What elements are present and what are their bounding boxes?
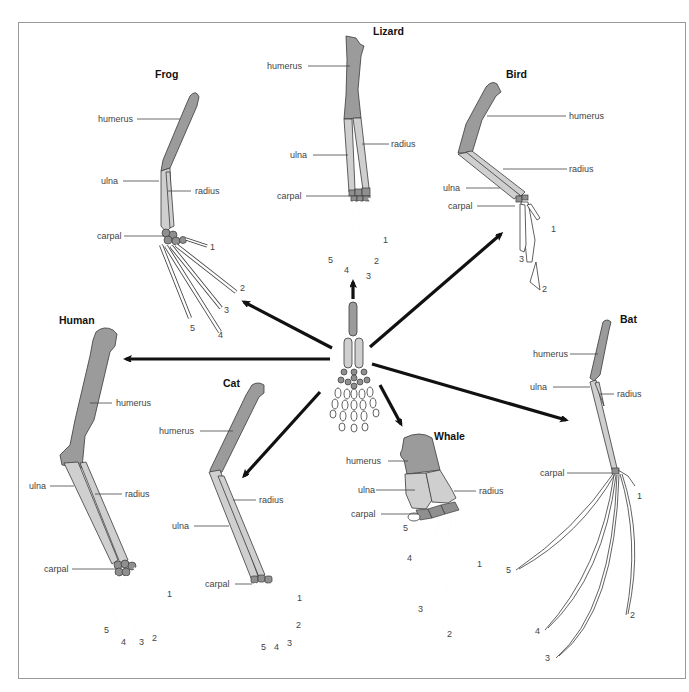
human-digits	[114, 568, 163, 632]
lizard-radius-label: radius	[391, 139, 416, 149]
cat-limb: Cat humerus radius ulna carpal 1	[159, 377, 302, 652]
bird-digit-2: 2	[542, 284, 547, 294]
bird-ulna-label: ulna	[443, 183, 460, 193]
bird-radius	[466, 151, 525, 196]
frog-digits	[161, 239, 236, 332]
bird-ulna	[458, 152, 520, 199]
bat-digits	[516, 470, 635, 658]
whale-digit-5: 5	[403, 523, 408, 533]
bat-ulna	[590, 380, 617, 470]
frog-digit-4: 4	[218, 330, 223, 340]
bird-title: Bird	[506, 68, 527, 80]
frog-humerus-label: humerus	[98, 114, 134, 124]
bat-ulna-label: ulna	[530, 382, 547, 392]
human-digit-3: 3	[139, 637, 144, 647]
generic-ulna	[344, 338, 352, 368]
arrow-to-bat	[372, 364, 566, 420]
cat-digit-4: 4	[274, 642, 279, 652]
cat-digit-1: 1	[297, 593, 302, 603]
bat-humerus-label: humerus	[533, 349, 569, 359]
diagram-canvas: Frog humerus ulna radius carpal	[0, 0, 689, 692]
cat-ulna-label: ulna	[172, 521, 189, 531]
bird-digit-3: 3	[519, 254, 524, 264]
frog-carpals	[162, 229, 187, 245]
whale-limb: Whale humerus ulna radius carpal 5	[346, 430, 504, 639]
lizard-digit-2: 2	[374, 256, 379, 266]
frog-ulna-label: ulna	[101, 176, 118, 186]
bat-digit-4: 4	[535, 626, 540, 636]
bird-carpal-label: carpal	[448, 201, 473, 211]
cat-carpals	[251, 575, 272, 583]
cat-humerus-label: humerus	[159, 426, 195, 436]
cat-radius	[218, 476, 265, 577]
bat-digit-1: 1	[637, 491, 642, 501]
bat-carpal-label: carpal	[540, 468, 565, 478]
human-title: Human	[59, 314, 95, 326]
human-digit-5: 5	[104, 625, 109, 635]
bird-limb: Bird humerus radius ulna carpal 1 3	[443, 68, 605, 294]
bat-title: Bat	[620, 313, 637, 325]
arrow-to-frog	[244, 302, 332, 348]
cat-ulna	[209, 470, 258, 578]
human-digit-1: 1	[167, 589, 172, 599]
lizard-digit-4: 4	[344, 265, 349, 275]
human-digit-2: 2	[152, 633, 157, 643]
frog-title: Frog	[155, 68, 178, 80]
human-carpal-label: carpal	[44, 564, 69, 574]
whale-digit-4: 4	[407, 553, 412, 563]
generic-carpals	[338, 369, 370, 389]
cat-title: Cat	[223, 377, 240, 389]
lizard-digit-5: 5	[328, 255, 333, 265]
bird-radius-label: radius	[569, 164, 594, 174]
cat-digit-5: 5	[261, 642, 266, 652]
generic-limb	[330, 302, 379, 432]
frog-limb: Frog humerus ulna radius carpal	[97, 68, 245, 340]
human-humerus-label: humerus	[116, 398, 152, 408]
human-radius-label: radius	[125, 489, 150, 499]
frog-humerus	[161, 93, 199, 171]
bird-digits	[520, 202, 540, 290]
whale-digits	[408, 512, 474, 632]
lizard-ulna	[344, 119, 355, 192]
whale-digit-1: 1	[477, 559, 482, 569]
cat-digit-2: 2	[296, 620, 301, 630]
human-humerus	[60, 328, 117, 468]
frog-carpal-label: carpal	[97, 231, 122, 241]
arrow-to-bird	[370, 234, 501, 347]
whale-humerus-label: humerus	[346, 456, 382, 466]
whale-carpal-label: carpal	[351, 509, 376, 519]
human-limb: Human humerus ulna radius carpal 1	[29, 314, 172, 647]
human-digit-4: 4	[121, 637, 126, 647]
bat-humerus	[590, 320, 611, 381]
generic-radius	[355, 338, 363, 368]
limb-diagram: Frog humerus ulna radius carpal	[0, 0, 689, 692]
cat-radius-label: radius	[259, 495, 284, 505]
bat-radius-label: radius	[617, 389, 642, 399]
lizard-limb: Lizard humerus ulna radius carpal	[267, 25, 416, 281]
lizard-radius	[353, 118, 369, 190]
whale-digit-2: 2	[447, 629, 452, 639]
lizard-carpal-label: carpal	[277, 191, 302, 201]
bird-digit-1: 1	[551, 224, 556, 234]
bird-carpals	[516, 195, 528, 202]
bird-humerus	[458, 83, 501, 153]
lizard-digit-1: 1	[383, 235, 388, 245]
lizard-humerus-label: humerus	[267, 61, 303, 71]
bird-digit-tip	[530, 262, 540, 290]
bat-carpals	[612, 468, 619, 474]
cat-digits	[255, 583, 293, 638]
human-carpals	[114, 560, 136, 576]
bird-humerus-label: humerus	[569, 111, 605, 121]
arrow-to-whale	[380, 385, 401, 424]
frog-radius-label: radius	[195, 186, 220, 196]
lizard-digit-3: 3	[366, 271, 371, 281]
frog-digit-1: 1	[210, 242, 215, 252]
cat-digit-3: 3	[287, 638, 292, 648]
frog-digit-3: 3	[224, 305, 229, 315]
bat-digit-5: 5	[506, 565, 511, 575]
bat-limb: Bat humerus ulna radius carpal 1 5 2	[506, 313, 642, 663]
whale-radius-label: radius	[479, 486, 504, 496]
bat-digit-3: 3	[545, 653, 550, 663]
lizard-humerus	[344, 36, 364, 119]
bat-digit-2: 2	[630, 610, 635, 620]
